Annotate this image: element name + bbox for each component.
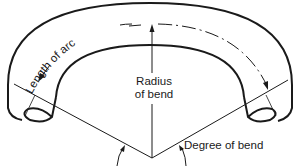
radius-label-line2: of bend [131, 88, 177, 101]
arc-dash-after-label [129, 25, 141, 26]
centerline-arc-left [120, 24, 132, 25]
radius-of-bend-label: Radius of bend [131, 75, 177, 101]
arc-arrow-right-head [263, 81, 268, 90]
pipe-bend-diagram: Length of arc Radius of bend Degree of b… [0, 0, 299, 166]
right-pipe-centerline [266, 95, 276, 116]
degree-of-bend-label: Degree of bend [184, 139, 263, 152]
left-pipe-centerline [25, 95, 35, 116]
right-pipe-end [244, 85, 292, 121]
radius-arrow-head [150, 24, 155, 32]
radius-label-line1: Radius [131, 75, 177, 88]
